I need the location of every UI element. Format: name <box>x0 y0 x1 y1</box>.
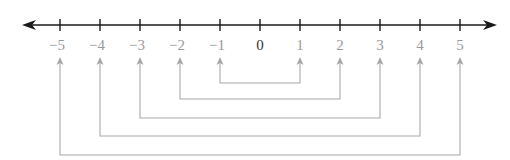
tick-label: −5 <box>49 37 65 53</box>
pair-connector <box>180 61 340 99</box>
tick-label: 0 <box>256 37 264 53</box>
tick-label: 3 <box>376 37 384 53</box>
tick-labels: −5−4−3−2−1012345 <box>49 37 464 53</box>
tick-label: −1 <box>209 37 225 53</box>
tick-label: −2 <box>169 37 185 53</box>
tick-label: 1 <box>296 37 304 53</box>
tick-label: 2 <box>336 37 344 53</box>
tick-label: 5 <box>456 37 464 53</box>
opposite-pair-connectors <box>57 57 464 155</box>
tick-label: −3 <box>129 37 145 53</box>
pair-connector <box>140 61 380 118</box>
number-line-diagram: −5−4−3−2−1012345 <box>0 0 510 160</box>
tick-label: 4 <box>416 37 424 53</box>
tick-label: −4 <box>89 37 105 53</box>
pair-connector <box>220 61 300 83</box>
pair-connector <box>60 61 460 155</box>
